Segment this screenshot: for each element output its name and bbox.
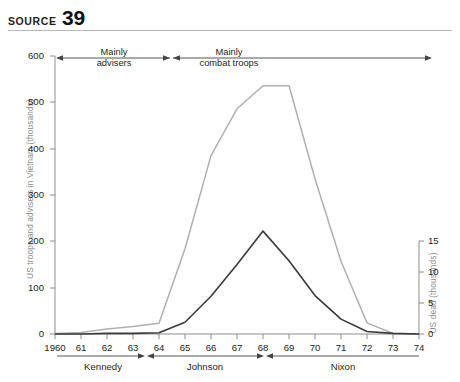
source-header: SOURCE 39 <box>8 6 452 32</box>
y-left-tick-0: 0 <box>14 328 44 339</box>
annotation-mainly-combat-troops: Mainly combat troops <box>180 47 278 68</box>
annotation-combat-line1: Mainly <box>180 47 278 58</box>
y-right-tick-15: 15 <box>428 235 454 246</box>
y-left-tick-300: 300 <box>14 189 44 200</box>
y-left-tick-100: 100 <box>14 282 44 293</box>
x-tick-74: 74 <box>402 342 436 353</box>
period-label-johnson: Johnson <box>164 361 246 372</box>
vietnam-war-line-chart: US troops and advisers in Vietnam (thous… <box>0 36 460 382</box>
source-number: 39 <box>62 6 85 30</box>
chart-plot-area <box>0 36 460 382</box>
presidential-period-arrows <box>57 353 419 359</box>
x-axis-ticks <box>55 334 419 339</box>
y-right-tick-5: 5 <box>428 297 454 308</box>
header-divider <box>8 30 452 31</box>
y-axis-left-ticks <box>50 56 55 334</box>
y-left-tick-600: 600 <box>14 50 44 61</box>
series-line-troops <box>55 86 419 334</box>
y-left-tick-500: 500 <box>14 96 44 107</box>
annotation-mainly-advisers: Mainly advisers <box>78 47 150 68</box>
period-label-kennedy: Kennedy <box>62 361 144 372</box>
annotation-advisers-line2: advisers <box>78 58 150 69</box>
y-axis-right-ticks <box>419 241 424 334</box>
period-label-nixon: Nixon <box>302 361 384 372</box>
source-label: SOURCE <box>8 15 57 27</box>
annotation-advisers-line1: Mainly <box>78 47 150 58</box>
y-left-tick-200: 200 <box>14 235 44 246</box>
y-right-tick-0: 0 <box>428 328 454 339</box>
annotation-combat-line2: combat troops <box>180 58 278 69</box>
y-left-tick-400: 400 <box>14 143 44 154</box>
y-right-tick-10: 10 <box>428 266 454 277</box>
